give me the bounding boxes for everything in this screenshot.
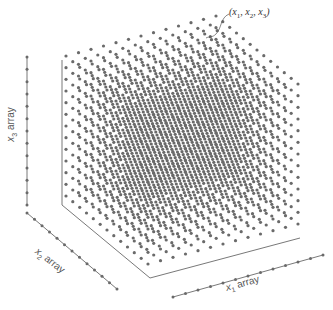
x3-axis-array — [26, 56, 29, 207]
x3-axis-label: x3 array — [5, 107, 18, 141]
point-coordinate-callout: (x1, x2, x3) — [229, 6, 270, 20]
grid-points — [64, 14, 299, 265]
